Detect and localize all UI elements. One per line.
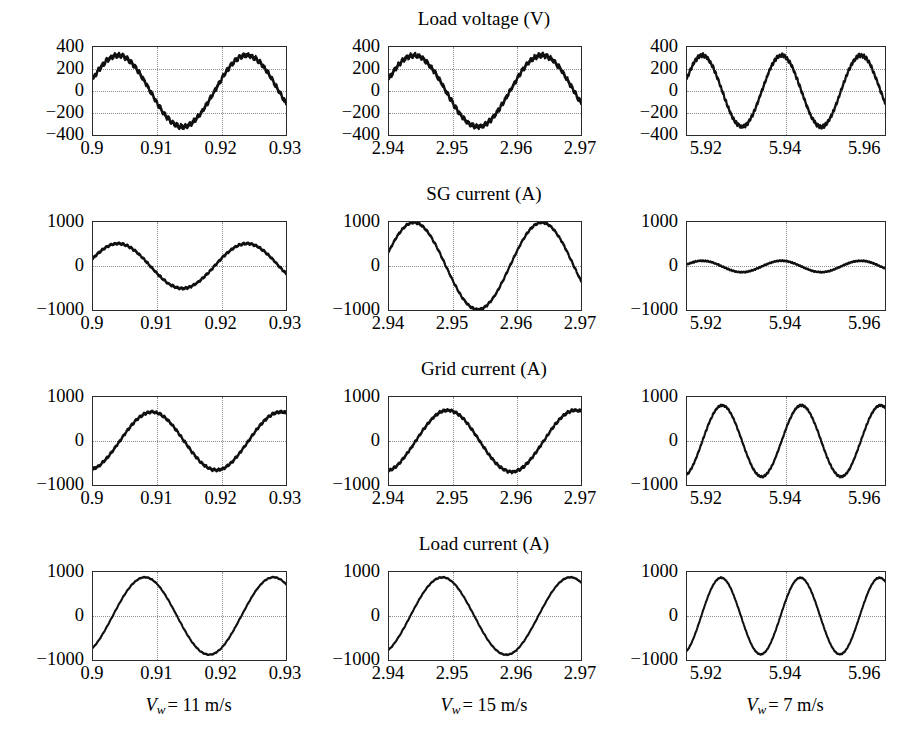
caption-subscript: w [452,702,461,717]
y-axis-labels-grid_current-col_7ms: 10000−1000 [598,396,678,484]
y-axis-labels-load_voltage-col_11ms: 4002000−200−400 [4,46,84,134]
plot-area-load_voltage-col_11ms [92,46,287,136]
y-axis-labels-grid_current-col_11ms: 10000−1000 [4,396,84,484]
row-title-text: Grid current (A) [421,358,547,380]
waveform-trace [93,47,286,135]
y-tick-label: 1000 [343,387,380,406]
row-title-text: SG current (A) [426,183,541,205]
plot-area-load_current-col_15ms [388,571,582,661]
caption-subscript: w [157,702,166,717]
y-tick-label: 1000 [343,562,380,581]
waveform-figure: Load voltage (V)4002000−200−4000.90.910.… [0,0,924,745]
caption-symbol: V [145,695,156,715]
y-tick-label: 1000 [343,212,380,231]
y-tick-label: 0 [371,256,380,275]
plot-area-sg_current-col_7ms [686,221,886,311]
y-tick-label: 400 [56,37,84,56]
y-axis-labels-load_voltage-col_7ms: 4002000−200−400 [598,46,678,134]
y-tick-label: 1000 [641,562,678,581]
waveform-trace [93,572,286,660]
waveform-trace [389,572,581,660]
y-tick-label: 400 [352,37,380,56]
plot-area-sg_current-col_15ms [388,221,582,311]
waveform-trace [687,222,885,310]
y-tick-label: 0 [669,431,678,450]
x-tick-label: 5.96 [824,139,904,158]
plot-area-load_current-col_7ms [686,571,886,661]
x-tick-label: 5.96 [824,314,904,333]
plot-area-grid_current-col_11ms [92,396,287,486]
y-axis-labels-grid_current-col_15ms: 10000−1000 [300,396,380,484]
y-tick-label: 0 [371,606,380,625]
caption-value: = 11 m/s [167,695,231,715]
x-tick-label: 5.96 [824,489,904,508]
y-tick-label: 0 [75,431,84,450]
caption-value: = 7 m/s [768,695,824,715]
plot-area-grid_current-col_7ms [686,396,886,486]
y-tick-label: −200 [46,103,84,122]
waveform-trace [389,397,581,485]
y-axis-labels-load_current-col_7ms: 10000−1000 [598,571,678,659]
x-tick-label: 5.92 [666,314,746,333]
y-axis-labels-sg_current-col_11ms: 10000−1000 [4,221,84,309]
x-tick-label: 5.92 [666,139,746,158]
plot-area-load_voltage-col_7ms [686,46,886,136]
y-tick-label: 0 [669,81,678,100]
waveform-trace [389,47,581,135]
caption-subscript: w [757,702,766,717]
y-tick-label: 1000 [47,212,84,231]
row-title-sg_current: SG current (A) [0,183,924,205]
x-tick-label: 0.93 [245,314,325,333]
caption-symbol: V [441,695,452,715]
x-tick-label: 5.96 [824,664,904,683]
waveform-trace [93,397,286,485]
x-tick-label: 5.92 [666,489,746,508]
x-tick-label: 0.93 [245,489,325,508]
y-tick-label: 0 [371,81,380,100]
y-axis-labels-load_current-col_15ms: 10000−1000 [300,571,380,659]
x-tick-label: 2.97 [540,139,620,158]
waveform-trace [687,397,885,485]
x-tick-label: 0.93 [245,139,325,158]
caption-symbol: V [746,695,757,715]
y-tick-label: 400 [650,37,678,56]
plot-area-load_current-col_11ms [92,571,287,661]
x-tick-label: 5.94 [745,489,825,508]
x-tick-label: 5.92 [666,664,746,683]
x-tick-label: 5.94 [745,139,825,158]
y-tick-label: −200 [342,103,380,122]
y-axis-labels-load_voltage-col_15ms: 4002000−200−400 [300,46,380,134]
waveform-trace [687,47,885,135]
plot-area-load_voltage-col_15ms [388,46,582,136]
y-tick-label: 0 [669,606,678,625]
y-tick-label: 1000 [47,387,84,406]
y-tick-label: 0 [669,256,678,275]
y-tick-label: 1000 [47,562,84,581]
x-tick-label: 0.93 [245,664,325,683]
y-tick-label: 200 [56,59,84,78]
y-tick-label: 1000 [641,387,678,406]
plot-area-sg_current-col_11ms [92,221,287,311]
y-tick-label: 0 [371,431,380,450]
row-title-text: Load voltage (V) [418,8,550,30]
row-title-text: Load current (A) [419,533,549,555]
column-caption-col_11ms: Vw= 11 m/s [59,695,319,720]
y-tick-label: −200 [640,103,678,122]
y-tick-label: 0 [75,81,84,100]
x-tick-label: 2.97 [540,314,620,333]
y-tick-label: 0 [75,606,84,625]
y-axis-labels-sg_current-col_15ms: 10000−1000 [300,221,380,309]
waveform-trace [687,572,885,660]
caption-value: = 15 m/s [463,695,528,715]
row-title-load_voltage: Load voltage (V) [0,8,924,30]
y-tick-label: 0 [75,256,84,275]
column-caption-col_15ms: Vw= 15 m/s [354,695,614,720]
y-tick-label: 200 [650,59,678,78]
row-title-grid_current: Grid current (A) [0,358,924,380]
row-title-load_current: Load current (A) [0,533,924,555]
y-tick-label: 200 [352,59,380,78]
x-tick-label: 5.94 [745,664,825,683]
plot-area-grid_current-col_15ms [388,396,582,486]
column-caption-col_7ms: Vw= 7 m/s [655,695,915,720]
waveform-trace [389,222,581,310]
